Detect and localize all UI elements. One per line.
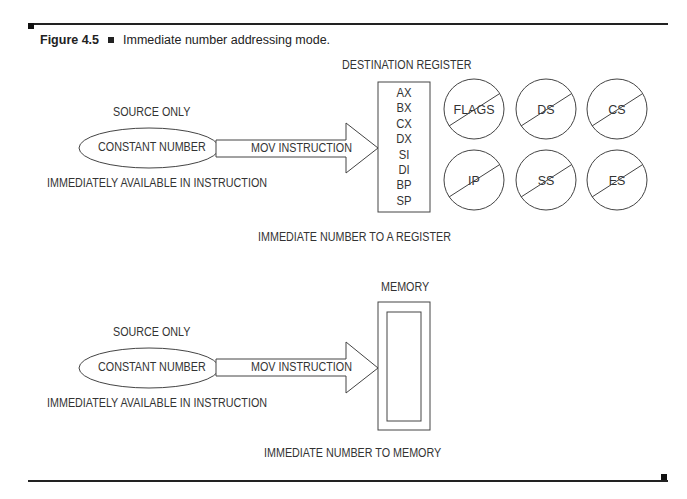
memory-box-outer — [378, 302, 430, 430]
strike-line — [592, 165, 642, 197]
strike-line — [592, 94, 642, 126]
circle-ip: IP — [444, 150, 504, 210]
strike-line — [449, 165, 499, 197]
register-sp: SP — [381, 194, 428, 209]
circle-flags: FLAGS — [444, 79, 504, 139]
memory-panel-subtitle: IMMEDIATE NUMBER TO MEMORY — [264, 446, 441, 460]
register-bx: BX — [381, 101, 428, 116]
register-dx: DX — [381, 132, 428, 147]
source-only-label-memory: SOURCE ONLY — [113, 325, 190, 339]
mov-instruction-label-register: MOV INSTRUCTION — [251, 141, 352, 155]
memory-box-inner — [387, 312, 421, 421]
register-si: SI — [381, 148, 428, 163]
allowed-register-list: AX BX CX DX SI DI BP SP — [378, 86, 430, 209]
circle-ds: DS — [516, 79, 576, 139]
source-only-label-register: SOURCE ONLY — [113, 105, 190, 119]
circle-ss: SS — [516, 150, 576, 210]
memory-heading: MEMORY — [381, 280, 429, 294]
constant-number-label-register: CONSTANT NUMBER — [98, 140, 206, 154]
destination-register-heading: DESTINATION REGISTER — [342, 58, 471, 72]
diagram-shapes: FLAGS DS CS IP SS ES — [0, 0, 687, 499]
circle-cs: CS — [587, 79, 647, 139]
register-panel-subtitle: IMMEDIATE NUMBER TO A REGISTER — [258, 230, 451, 244]
circle-es: ES — [587, 150, 647, 210]
register-bp: BP — [381, 178, 428, 193]
mov-instruction-label-memory: MOV INSTRUCTION — [251, 360, 352, 374]
strike-line — [521, 165, 571, 197]
register-ax: AX — [381, 86, 428, 101]
register-di: DI — [381, 163, 428, 178]
immediately-available-note-memory: IMMEDIATELY AVAILABLE IN INSTRUCTION — [47, 396, 267, 410]
strike-line — [521, 94, 571, 126]
constant-number-label-memory: CONSTANT NUMBER — [98, 360, 206, 374]
register-cx: CX — [381, 117, 428, 132]
immediately-available-note-register: IMMEDIATELY AVAILABLE IN INSTRUCTION — [47, 176, 267, 190]
